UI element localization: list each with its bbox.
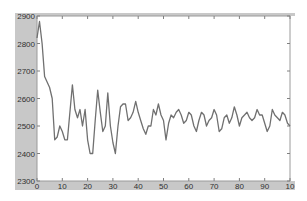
x-tick-label: 70 — [210, 182, 219, 191]
x-tick-label: 90 — [260, 182, 269, 191]
x-tick-label: 0 — [35, 182, 40, 191]
y-tick-label: 2600 — [17, 95, 35, 104]
x-tick-label: 30 — [108, 182, 117, 191]
x-tick-label: 80 — [235, 182, 244, 191]
x-tick-label: 20 — [83, 182, 92, 191]
x-tick-label: 10 — [286, 182, 295, 191]
y-tick-label: 2400 — [17, 150, 35, 159]
x-tick-label: 60 — [184, 182, 193, 191]
line-chart: 2300240025002600270028002900 01020304050… — [0, 0, 307, 201]
x-tick-label: 40 — [134, 182, 143, 191]
x-tick-label: 10 — [58, 182, 67, 191]
y-tick-label: 2300 — [17, 177, 35, 186]
y-tick-label: 2800 — [17, 40, 35, 49]
y-tick-label: 2700 — [17, 67, 35, 76]
x-tick-label: 50 — [159, 182, 168, 191]
plot-area — [37, 16, 290, 181]
y-tick-label: 2500 — [17, 122, 35, 131]
y-tick-label: 2900 — [17, 12, 35, 21]
